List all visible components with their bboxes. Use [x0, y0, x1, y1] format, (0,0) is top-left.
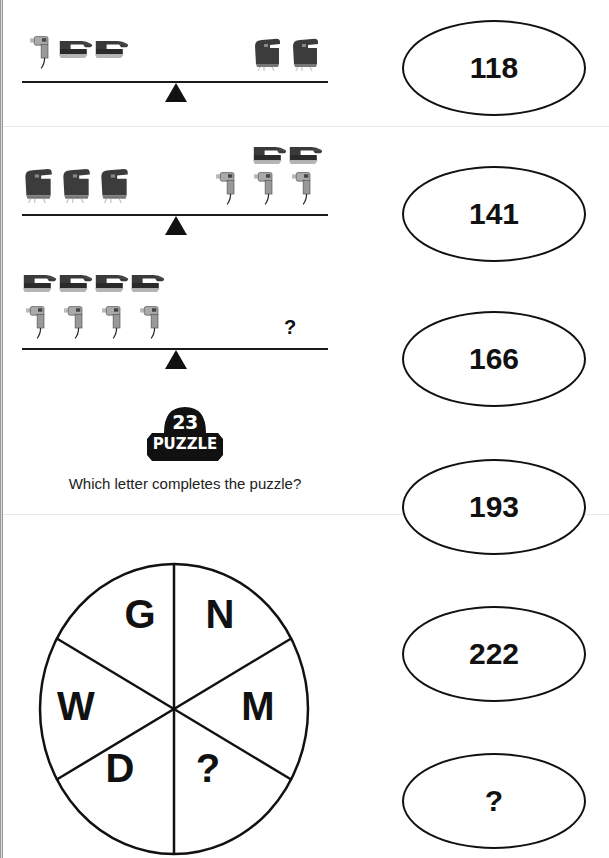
drill-icon [254, 170, 278, 206]
sander-icon [252, 144, 288, 166]
jigsaw-icon [252, 36, 282, 72]
drill-icon [140, 304, 164, 340]
sequence-number: 193 [469, 490, 519, 524]
drill-icon [102, 304, 126, 340]
drill-icon [292, 170, 316, 206]
wheel-letter: W [57, 684, 95, 728]
sequence-number: 141 [469, 197, 519, 231]
sander-icon [130, 272, 166, 294]
sander-icon [94, 38, 130, 60]
drill-icon [26, 304, 50, 340]
sequence-oval: 118 [402, 20, 586, 116]
sequence-number: 118 [470, 51, 518, 85]
sander-icon [58, 272, 94, 294]
sequence-number: 222 [469, 637, 519, 671]
sequence-oval: 222 [402, 606, 586, 702]
balance-scale-2 [22, 144, 328, 204]
wheel-letter: D [106, 746, 135, 790]
fulcrum-icon [165, 83, 187, 102]
sequence-oval: 166 [402, 311, 586, 407]
sequence-oval: 193 [402, 459, 586, 555]
jigsaw-icon [98, 166, 130, 204]
jigsaw-icon [60, 166, 92, 204]
letter-wheel: G N M ? D W [36, 556, 312, 858]
puzzle-number-badge: 23 PUZZLE [146, 405, 224, 465]
jigsaw-icon [22, 166, 54, 204]
sequence-oval: 141 [402, 166, 586, 262]
sander-icon [22, 272, 58, 294]
balance-scale-1 [22, 28, 328, 88]
wheel-letter: N [206, 592, 235, 636]
sander-icon [288, 144, 324, 166]
drill-icon [216, 170, 240, 206]
puzzle-label: PUZZLE [146, 435, 224, 453]
jigsaw-icon [290, 36, 320, 72]
divider [3, 126, 609, 127]
sander-icon [94, 272, 130, 294]
sequence-number: 166 [469, 342, 519, 376]
fulcrum-icon [165, 350, 187, 369]
puzzle-question: Which letter completes the puzzle? [0, 475, 370, 492]
sequence-number: ? [485, 784, 503, 818]
sander-icon [58, 38, 94, 60]
fulcrum-icon [165, 216, 187, 235]
unknown-weight-label: ? [284, 316, 296, 339]
balance-scale-3: ? [22, 272, 328, 332]
drill-icon [30, 34, 54, 70]
wheel-letter: ? [196, 746, 220, 790]
page-left-border [0, 0, 3, 858]
sequence-oval: ? [402, 753, 586, 849]
wheel-letter: M [241, 684, 274, 728]
wheel-letter: G [124, 592, 155, 636]
drill-icon [64, 304, 88, 340]
puzzle-number: 23 [146, 411, 224, 433]
